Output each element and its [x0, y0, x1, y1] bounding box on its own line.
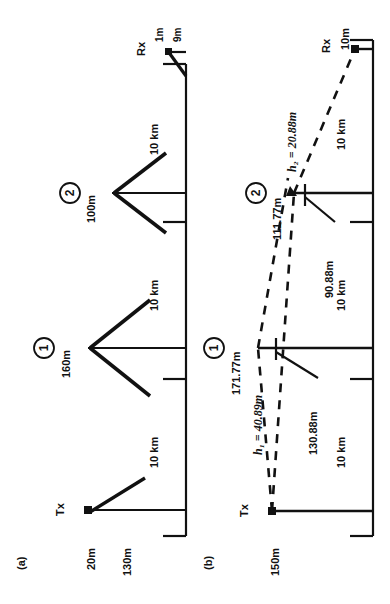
panel-b-station-2-subheight: 90.88m	[323, 260, 335, 298]
panel-b-station-1-badge: 1	[207, 344, 221, 351]
panel-a-station-2-badge: 2	[63, 189, 77, 196]
panel-b-group: 10 km 10 km 10 km Tx 150m h₁ = 40.89m 13…	[202, 28, 373, 576]
panel-a-rx-height-9m: 9m	[172, 27, 183, 42]
panel-a-span-label-1: 10 km	[148, 280, 160, 311]
panel-a-tx-height-20m: 20m	[85, 548, 97, 570]
panel-b-span-label-1: 10 km	[335, 280, 347, 311]
diagram-svg: 10 km 10 km 10 km Tx 20m 130m 1 160m 2 1…	[0, 0, 390, 604]
panel-b-span-label-2: 10 km	[335, 119, 347, 150]
panel-b-station-1-subheight: 130.88m	[307, 411, 319, 455]
figure-root: 10 km 10 km 10 km Tx 20m 130m 1 160m 2 1…	[0, 0, 390, 604]
panel-b-station-2-subheight-leader	[305, 197, 335, 222]
panel-a-tx-height-130m: 130m	[121, 548, 133, 576]
panel-b-effective-height-1: h₁ = 40.89m	[251, 395, 265, 455]
panel-a-station-2-antenna-upper	[114, 153, 166, 193]
panel-b-tx-label: Tx	[238, 503, 250, 517]
panel-b-rx-height: 10m	[339, 28, 351, 50]
panel-a-group: 10 km 10 km 10 km Tx 20m 130m 1 160m 2 1…	[15, 27, 186, 576]
panel-b-span-label-0: 10 km	[335, 437, 347, 468]
panel-a-rx-height-1m: 1m	[154, 27, 165, 42]
panel-a-span-label-0: 10 km	[148, 437, 160, 468]
panel-b-tx-height: 150m	[269, 548, 281, 576]
panel-b-effective-height-2: h₂ = 20.88m	[285, 112, 299, 172]
panel-a-station-1-antenna-lower	[90, 348, 150, 396]
panel-b-station-2-height: 111.77m	[271, 198, 283, 240]
panel-a-tx-antenna	[90, 478, 145, 512]
panel-a-span-label-2: 10 km	[148, 124, 160, 155]
panel-a-station-2-height: 100m	[85, 195, 97, 223]
panel-b-station-1-height: 171.77m	[230, 351, 242, 395]
panel-b-caption: (b)	[202, 556, 214, 570]
panel-a-station-2-antenna-lower	[114, 193, 166, 233]
panel-a-caption: (a)	[15, 556, 27, 570]
panel-a-tx-label: Tx	[54, 502, 66, 516]
panel-a-station-1-height: 160m	[60, 350, 72, 378]
panel-a-station-1-badge: 1	[37, 344, 51, 351]
panel-a-station-1-antenna-upper	[90, 300, 150, 348]
panel-b-station-2-badge: 2	[249, 189, 263, 196]
panel-b-rx-label: Rx	[320, 38, 332, 53]
panel-a-rx-label: Rx	[135, 41, 147, 56]
